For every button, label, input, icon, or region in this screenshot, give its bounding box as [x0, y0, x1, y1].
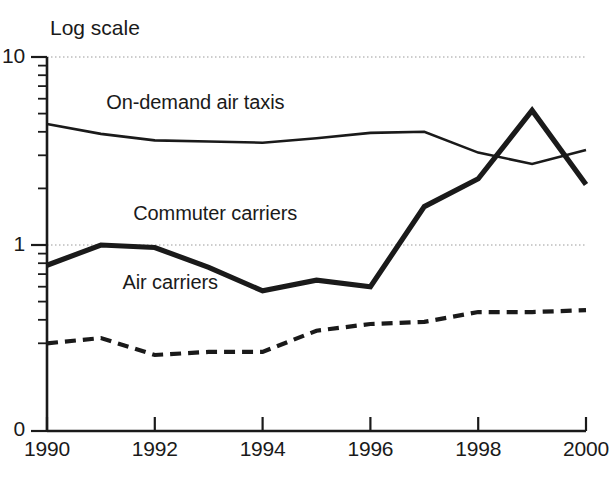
y-tick-label: 10 — [2, 44, 25, 68]
series-label-0: On-demand air taxis — [106, 91, 284, 114]
log-scale-note: Log scale — [50, 16, 140, 40]
log-scale-line-chart: Log scale 1100 199019921994199619982000 … — [0, 0, 613, 497]
x-tick-label: 1990 — [17, 437, 77, 461]
series-label-2: Air carriers — [122, 271, 217, 294]
x-tick-label: 2000 — [556, 437, 613, 461]
x-axis-ticks — [47, 417, 586, 431]
x-tick-label: 1996 — [340, 437, 400, 461]
plot-area — [0, 0, 613, 497]
series-label-1: Commuter carriers — [133, 202, 297, 225]
series-line-2 — [47, 310, 586, 355]
y-tick-label: 1 — [14, 232, 25, 256]
gridlines — [47, 57, 586, 245]
y-axis-ticks — [31, 57, 47, 431]
x-tick-label: 1992 — [125, 437, 185, 461]
series-lines — [47, 110, 586, 355]
x-tick-label: 1998 — [448, 437, 508, 461]
x-tick-label: 1994 — [233, 437, 293, 461]
